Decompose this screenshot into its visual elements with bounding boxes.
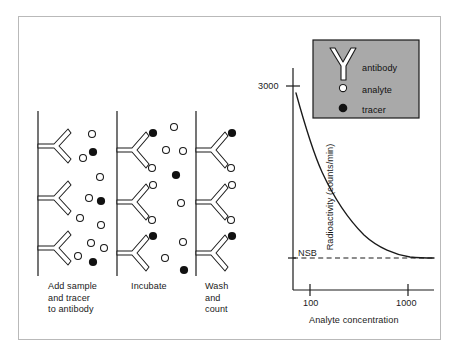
- tracer-filled-circle-icon: [149, 232, 157, 240]
- antibody-complex: [117, 132, 149, 168]
- x-axis-title: Analyte concentration: [309, 315, 399, 325]
- panel-incubate: [117, 111, 188, 276]
- tracer-filled-circle-icon: [180, 266, 188, 274]
- analyte-open-circle-icon: [101, 245, 108, 252]
- analyte-open-circle-icon: [171, 124, 178, 131]
- analyte-open-circle-icon: [180, 148, 187, 155]
- antibody-icon: [38, 231, 71, 265]
- analyte-open-circle-icon: [178, 200, 185, 207]
- antibody-complex: [117, 235, 149, 271]
- legend-label-analyte: analyte: [362, 85, 392, 95]
- analyte-open-circle-icon: [228, 217, 235, 224]
- antibody-complex: [196, 235, 228, 271]
- analyte-open-circle-icon: [98, 222, 105, 229]
- analyte-open-circle-icon: [89, 131, 96, 138]
- tracer-filled-circle-icon: [97, 197, 105, 205]
- antibody-complex: [196, 132, 228, 168]
- analyte-open-circle-icon: [149, 165, 156, 172]
- antibody-complex: [117, 184, 149, 220]
- caption-wash-count: Wash and count: [205, 281, 228, 316]
- y-axis-tick-label: 3000: [258, 81, 279, 91]
- figure-root: Add sample and tracer to antibody Incuba…: [0, 0, 458, 356]
- analyte-open-circle-icon: [88, 240, 95, 247]
- panel-wash-count: [196, 111, 236, 276]
- nsb-annotation-label: NSB: [298, 248, 317, 258]
- analyte-open-circle-icon: [97, 174, 104, 181]
- caption-incubate: Incubate: [131, 281, 167, 293]
- tracer-filled-circle-icon: [89, 148, 97, 156]
- antibody-complex: [196, 184, 228, 220]
- legend-label-tracer: tracer: [362, 105, 386, 115]
- tracer-filled-circle-icon: [228, 129, 236, 137]
- analyte-open-circle-icon: [77, 215, 84, 222]
- analyte-open-circle-icon: [180, 239, 187, 246]
- analyte-open-circle-icon: [229, 182, 236, 189]
- antibody-icon: [38, 181, 71, 215]
- analyte-open-circle-icon: [149, 217, 156, 224]
- analyte-open-circle-icon: [75, 253, 82, 260]
- analyte-open-circle-icon: [163, 147, 170, 154]
- analyte-open-circle-icon: [228, 165, 235, 172]
- analyte-open-circle-icon: [150, 182, 157, 189]
- tracer-filled-circle-icon: [89, 258, 97, 266]
- caption-add-sample: Add sample and tracer to antibody: [48, 281, 97, 316]
- analyte-open-circle-icon: [339, 84, 346, 91]
- analyte-open-circle-icon: [86, 195, 93, 202]
- panel-add-sample: [38, 111, 112, 276]
- legend-label-antibody: antibody: [362, 63, 397, 73]
- tracer-filled-circle-icon: [172, 171, 180, 179]
- y-axis-title: Radioactivity (counts/min): [325, 127, 335, 267]
- tracer-filled-circle-icon: [228, 232, 236, 240]
- antibody-icon: [38, 129, 71, 163]
- x-axis-tick-label: 1000: [396, 298, 417, 308]
- tracer-filled-circle-icon: [149, 129, 157, 137]
- tracer-filled-circle-icon: [339, 104, 348, 113]
- analyte-open-circle-icon: [80, 155, 87, 162]
- x-axis-tick-label: 100: [303, 298, 318, 308]
- analyte-open-circle-icon: [162, 255, 169, 262]
